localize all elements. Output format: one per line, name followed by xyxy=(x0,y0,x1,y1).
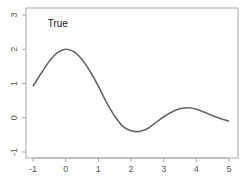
x-tick-label: 3 xyxy=(161,164,166,174)
y-tick-label: 1 xyxy=(9,81,19,86)
true-function-line xyxy=(33,49,229,131)
true-label: True xyxy=(48,18,69,29)
plot-frame xyxy=(26,8,238,158)
x-tick-label: 4 xyxy=(194,164,199,174)
x-tick-label: 0 xyxy=(63,164,68,174)
x-tick-label: 2 xyxy=(128,164,133,174)
y-axis: -10123 xyxy=(9,12,26,156)
y-tick-label: 2 xyxy=(9,47,19,52)
x-tick-label: 5 xyxy=(226,164,231,174)
y-tick-label: 3 xyxy=(9,12,19,17)
x-tick-label: 1 xyxy=(96,164,101,174)
x-tick-label: -1 xyxy=(29,164,37,174)
y-tick-label: 0 xyxy=(9,115,19,120)
y-tick-label: -1 xyxy=(9,148,19,156)
line-chart: -1012345 -10123 True xyxy=(0,0,250,178)
x-axis: -1012345 xyxy=(29,158,232,174)
